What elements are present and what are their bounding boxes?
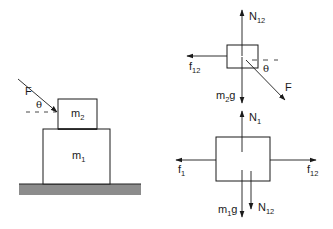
fbd-upper-block: N12 f12 m2g F θ (187, 10, 292, 104)
ground (19, 184, 141, 195)
normal-force-n12-label: N12 (249, 10, 265, 25)
angle-theta-label: θ (36, 99, 42, 110)
friction-f1-label: f1 (178, 163, 185, 178)
fbd-m2-box (227, 45, 258, 68)
angle-theta-label: θ (263, 63, 269, 74)
weight-m1g-label: m1g (218, 203, 237, 218)
weight-m2g-label: m2g (216, 89, 235, 104)
fbd-m1-box (216, 137, 270, 181)
free-body-diagram: m1 m2 F θ N12 f12 m2g F θ N1 f1 f12 m1g … (0, 0, 333, 229)
friction-f12-label: f12 (189, 60, 200, 75)
normal-force-n1-label: N1 (249, 111, 261, 126)
applied-force-f-label: F (285, 81, 292, 93)
normal-force-n12-label: N12 (258, 201, 274, 216)
fbd-lower-block: N1 f1 f12 m1g N12 (176, 111, 318, 218)
applied-force-label: F (25, 85, 32, 97)
friction-f12-label: f12 (307, 163, 318, 178)
setup-diagram: m1 m2 F θ (18, 79, 141, 195)
